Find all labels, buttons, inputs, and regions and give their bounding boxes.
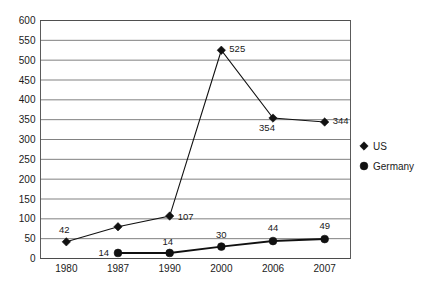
y-axis-tick-label: 450 bbox=[19, 75, 36, 86]
y-axis-tick-label: 350 bbox=[19, 114, 36, 125]
data-point-marker bbox=[360, 142, 368, 150]
x-axis-tick-label: 2006 bbox=[262, 263, 285, 274]
series-line bbox=[66, 50, 324, 242]
y-axis-tick-label: 300 bbox=[19, 134, 36, 145]
y-axis-tick-label: 250 bbox=[19, 154, 36, 165]
legend-item-label: Germany bbox=[373, 161, 414, 172]
data-point-label: 525 bbox=[229, 43, 245, 54]
chart-canvas: 050100150200250300350400450500550600 198… bbox=[0, 0, 431, 291]
data-point-marker bbox=[320, 118, 328, 126]
data-point-label: 42 bbox=[59, 224, 70, 235]
y-axis-tick-label: 0 bbox=[30, 253, 36, 264]
data-point-label: 44 bbox=[268, 222, 279, 233]
x-axis-tick-label: 1990 bbox=[159, 263, 182, 274]
data-point-marker bbox=[269, 114, 277, 122]
data-point-label: 354 bbox=[259, 122, 275, 133]
y-axis-tick-labels: 050100150200250300350400450500550600 bbox=[19, 15, 36, 264]
x-axis-tick-labels: 198019871990200020062007 bbox=[55, 263, 336, 274]
data-point-label: 344 bbox=[333, 115, 349, 126]
data-point-marker bbox=[217, 243, 225, 251]
x-axis-tick-label: 2007 bbox=[314, 263, 337, 274]
series-us bbox=[62, 46, 329, 246]
legend-item-label: US bbox=[373, 141, 387, 152]
grid-lines bbox=[41, 21, 351, 259]
y-axis-tick-label: 100 bbox=[19, 213, 36, 224]
y-axis-tick-label: 150 bbox=[19, 194, 36, 205]
chart-legend: USGermany bbox=[360, 141, 414, 172]
y-axis-tick-label: 50 bbox=[24, 233, 36, 244]
data-labels: 421075253543441414304449 bbox=[59, 43, 348, 258]
data-point-label: 30 bbox=[216, 229, 227, 240]
data-point-marker bbox=[269, 237, 277, 245]
data-point-marker bbox=[360, 162, 368, 170]
data-point-marker bbox=[217, 46, 225, 54]
data-point-marker bbox=[166, 249, 174, 257]
data-point-marker bbox=[321, 235, 329, 243]
data-point-marker bbox=[114, 249, 122, 257]
data-point-label: 14 bbox=[98, 247, 109, 258]
y-axis-tick-label: 500 bbox=[19, 55, 36, 66]
y-axis-tick-label: 550 bbox=[19, 35, 36, 46]
data-point-marker bbox=[114, 223, 122, 231]
data-point-label: 49 bbox=[319, 220, 330, 231]
x-axis-tick-label: 1987 bbox=[107, 263, 130, 274]
y-axis-tick-label: 400 bbox=[19, 94, 36, 105]
x-axis-tick-label: 2000 bbox=[210, 263, 233, 274]
data-point-label: 14 bbox=[162, 236, 173, 247]
data-point-label: 107 bbox=[178, 211, 194, 222]
x-axis-tick-label: 1980 bbox=[55, 263, 78, 274]
y-axis-tick-label: 200 bbox=[19, 174, 36, 185]
y-axis-tick-label: 600 bbox=[19, 15, 36, 26]
line-chart: 050100150200250300350400450500550600 198… bbox=[0, 0, 431, 291]
